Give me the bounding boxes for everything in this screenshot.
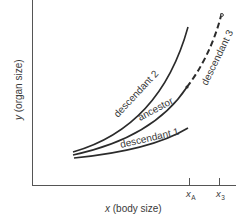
junction-marker [185,85,188,88]
y-axis-label: y (organ size) [13,59,24,121]
tick-label-x3: x3 [215,188,225,201]
label-descendant-1: descendant 1 [119,126,180,150]
endpoint-marker [221,14,224,17]
tick-label-xA: xA [185,188,196,201]
label-descendant-3: descendant 3 [199,28,235,87]
allometry-diagram: xA x3 descendant 2 ancestor descendant 1… [0,0,249,218]
x-axis-label: x (body size) [104,203,162,214]
